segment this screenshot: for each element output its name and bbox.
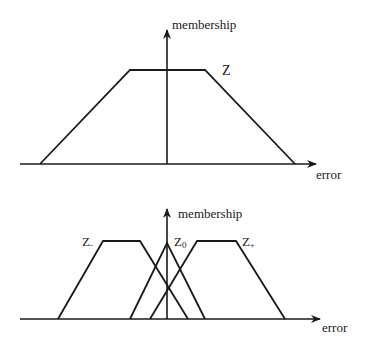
set-label-z-minus: Z- <box>82 234 93 250</box>
top-x-axis-label: error <box>316 167 342 182</box>
bottom-y-axis-label: membership <box>178 206 242 221</box>
top-y-axis-label: membership <box>172 17 236 32</box>
membership-function-z-plus <box>150 241 285 319</box>
set-label-z: Z <box>222 63 231 78</box>
set-label-z-plus: Z+ <box>242 234 255 250</box>
set-label-z-zero: Z0 <box>174 234 187 250</box>
bottom-panel: membership error Z- Z0 Z+ <box>20 206 348 335</box>
membership-function-z-minus <box>58 241 188 319</box>
fuzzy-membership-diagram: membership error Z membership error Z- Z… <box>0 0 365 341</box>
top-panel: membership error Z <box>20 17 342 182</box>
bottom-x-axis-label: error <box>322 320 348 335</box>
